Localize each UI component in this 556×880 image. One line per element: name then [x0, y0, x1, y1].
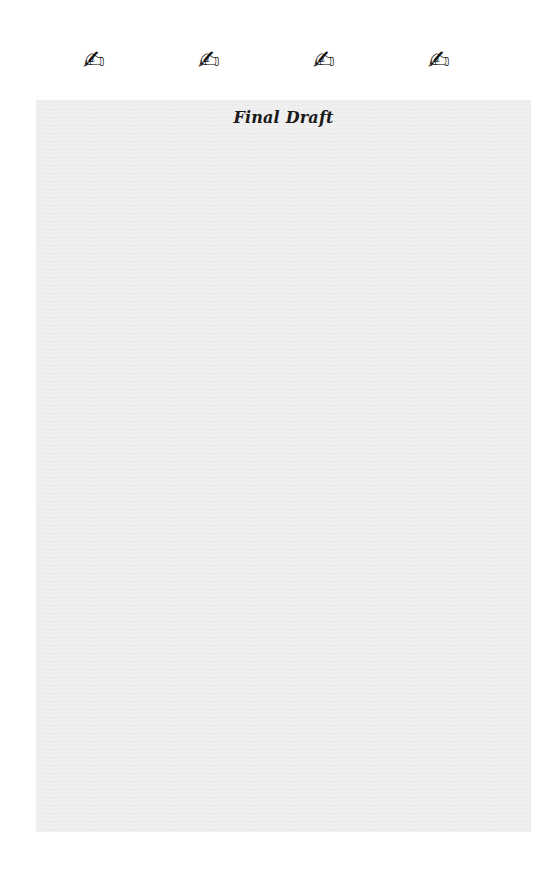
panel-title: Final Draft [36, 108, 531, 127]
final-draft-panel: Final Draft [36, 100, 531, 832]
writing-hand-icon: ✍ [78, 44, 110, 76]
icon-row: ✍ ✍ ✍ ✍ [0, 44, 556, 78]
writing-hand-icon: ✍ [193, 44, 225, 76]
writing-hand-icon: ✍ [423, 44, 455, 76]
writing-hand-icon: ✍ [308, 44, 340, 76]
